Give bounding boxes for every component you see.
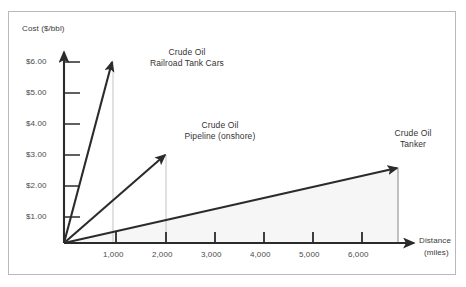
series-label-railroad-line2: Railroad Tank Cars bbox=[135, 58, 239, 69]
series-label-tanker-line2: Tanker bbox=[381, 139, 445, 150]
y-tick-label-2: $2.00 bbox=[26, 181, 47, 191]
x-axis-title-line1: Distance bbox=[419, 236, 451, 246]
x-tick-label-5000: 5,000 bbox=[299, 250, 320, 260]
y-tick-label-4: $4.00 bbox=[26, 119, 47, 129]
series-label-railroad-line1: Crude Oil bbox=[135, 47, 239, 58]
y-tick-label-3: $3.00 bbox=[26, 150, 47, 160]
x-tick-label-3000: 3,000 bbox=[201, 250, 222, 260]
y-axis-title: Cost ($/bbl) bbox=[22, 24, 65, 34]
series-label-tanker-line1: Crude Oil bbox=[381, 128, 445, 139]
chart-page: Cost ($/bbl) $6.00 $5.00 $4.00 $3.00 $2.… bbox=[0, 0, 466, 287]
y-tick-label-6: $6.00 bbox=[26, 57, 47, 67]
series-label-pipeline-onshore: Crude Oil Pipeline (onshore) bbox=[168, 120, 272, 142]
series-line-railroad-tank-cars bbox=[64, 62, 112, 243]
series-label-pipeline-line2: Pipeline (onshore) bbox=[168, 131, 272, 142]
x-tick-label-6000: 6,000 bbox=[348, 250, 369, 260]
series-label-pipeline-line1: Crude Oil bbox=[168, 120, 272, 131]
x-tick-label-4000: 4,000 bbox=[250, 250, 271, 260]
y-tick-label-5: $5.00 bbox=[26, 88, 47, 98]
series-label-tanker: Crude Oil Tanker bbox=[381, 128, 445, 150]
x-axis-title-line2: (miles) bbox=[424, 248, 449, 258]
x-tick-label-1000: 1,000 bbox=[103, 250, 124, 260]
series-label-railroad-tank-cars: Crude Oil Railroad Tank Cars bbox=[135, 47, 239, 69]
x-tick-label-2000: 2,000 bbox=[152, 250, 173, 260]
y-tick-label-1: $1.00 bbox=[26, 212, 47, 222]
